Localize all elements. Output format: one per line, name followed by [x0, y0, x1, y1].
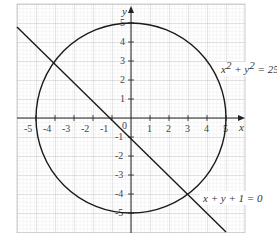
- line-equation-label: x + y + 1 = 0: [200, 191, 277, 205]
- svg-text:2: 2: [120, 74, 125, 85]
- x-axis-label: x: [238, 121, 244, 133]
- svg-text:-4: -4: [43, 123, 51, 134]
- svg-text:x + y + 1 = 0: x + y + 1 = 0: [202, 192, 263, 204]
- svg-text:-1: -1: [115, 131, 123, 142]
- svg-text:5: 5: [120, 17, 125, 28]
- svg-text:4: 4: [120, 36, 125, 47]
- y-axis-label: y: [121, 5, 127, 17]
- graph-figure: -5 -4 -3 -2 -1 0 1 2 3 4 5 x 5 4 3 2 1 -…: [0, 0, 277, 233]
- svg-text:3: 3: [120, 55, 125, 66]
- svg-text:4: 4: [204, 123, 209, 134]
- svg-text:0: 0: [122, 120, 127, 131]
- svg-text:-5: -5: [24, 123, 32, 134]
- svg-text:3: 3: [185, 123, 190, 134]
- svg-text:-3: -3: [115, 169, 123, 180]
- svg-text:-2: -2: [81, 123, 89, 134]
- svg-text:2: 2: [166, 123, 171, 134]
- svg-text:-3: -3: [62, 123, 70, 134]
- svg-text:1: 1: [147, 123, 152, 134]
- circle-equation-label: x2 + y2 = 25: [220, 59, 277, 76]
- svg-text:1: 1: [120, 93, 125, 104]
- svg-text:-1: -1: [100, 123, 108, 134]
- svg-text:-4: -4: [115, 188, 123, 199]
- svg-text:-2: -2: [115, 150, 123, 161]
